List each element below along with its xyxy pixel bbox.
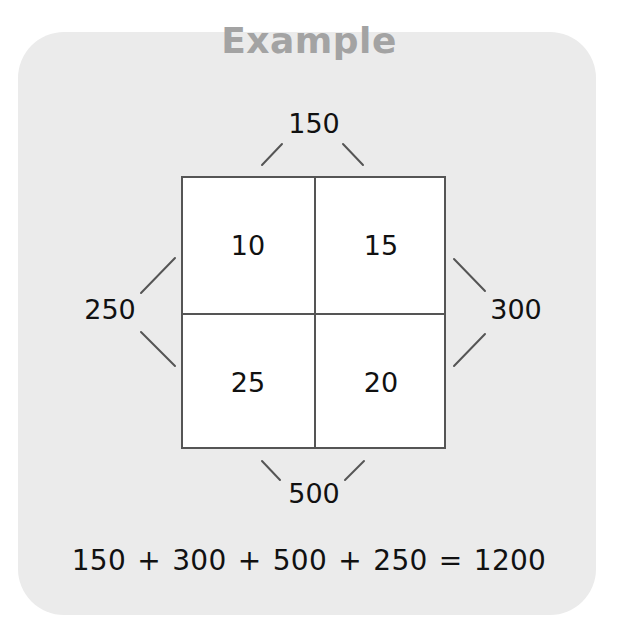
bottom-sum-label: 500 [274, 478, 354, 509]
number-grid: 10 15 25 20 [181, 176, 446, 449]
sum-equation: 150 + 300 + 500 + 250 = 1200 [0, 544, 618, 577]
grid-cell-top-right: 15 [316, 178, 446, 312]
right-sum-label: 300 [476, 294, 556, 325]
example-title: Example [0, 20, 618, 61]
grid-cell-bottom-right: 20 [316, 315, 446, 449]
grid-cell-top-left: 10 [183, 178, 313, 312]
grid-cell-bottom-left: 25 [183, 315, 313, 449]
left-sum-label: 250 [70, 294, 150, 325]
top-sum-label: 150 [274, 108, 354, 139]
